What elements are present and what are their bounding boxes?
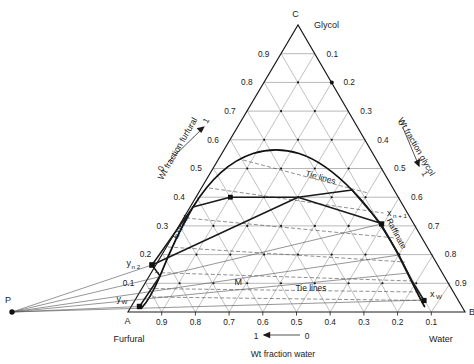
right-tick-4: 0.5 <box>394 163 406 173</box>
left-tick-7: 0.2 <box>140 249 152 259</box>
right-tick-5: 0.6 <box>411 192 423 202</box>
point-marker-y-n2 <box>149 262 155 268</box>
point-marker-y-w <box>137 304 142 309</box>
bottom-tick-5: 0.4 <box>324 317 336 327</box>
extract-label: Extract <box>170 212 191 240</box>
bottom-axis-arrow <box>263 332 300 339</box>
right-tick-7: 0.8 <box>445 249 457 259</box>
vertex-name-water: Water <box>429 334 453 344</box>
mix-point-label: M <box>235 277 243 287</box>
right-tick-1: 0.2 <box>343 77 355 87</box>
right-tick-3: 0.4 <box>377 135 389 145</box>
left-tick-8: 0.1 <box>123 278 135 288</box>
bottom-axis-to: 1 <box>254 331 259 341</box>
x-w-label: x W <box>430 289 442 301</box>
bottom-axis-title: Wt fraction water <box>251 349 316 359</box>
point-marker-x-n1 <box>379 221 384 226</box>
left-tick-0: 0.9 <box>258 49 270 59</box>
bottom-tick-2: 0.7 <box>223 317 235 327</box>
y-n2-label: y n 2 <box>127 258 141 270</box>
point-marker-x-w <box>421 298 426 303</box>
left-tick-3: 0.6 <box>207 135 219 145</box>
point-marker-m <box>228 195 233 200</box>
grid-parallel-to-right-edge <box>146 54 431 312</box>
pole-point-label: P <box>5 295 11 305</box>
bottom-tick-4: 0.5 <box>291 317 303 327</box>
ternary-diagram-svg: 0.9 0.8 0.7 0.6 0.5 0.4 0.3 0.2 0.1 0.1 … <box>0 0 474 364</box>
bottom-axis-tick-labels: 0.9 0.8 0.7 0.6 0.5 0.4 0.3 0.2 0.1 <box>156 317 438 327</box>
svg-text:W: W <box>436 293 442 300</box>
tie-lines-label-lower: Tie lines <box>296 283 327 293</box>
vertex-name-furfural: Furfural <box>114 334 145 344</box>
left-tick-2: 0.7 <box>224 106 236 116</box>
svg-text:n 2: n 2 <box>132 263 141 270</box>
svg-text:x: x <box>430 289 435 299</box>
grid-node-dots <box>179 81 418 284</box>
vertex-name-glycol: Glycol <box>314 20 339 30</box>
bottom-tick-7: 0.2 <box>392 317 404 327</box>
vertex-letter-c: C <box>292 9 299 19</box>
operating-lines-from-pole <box>12 224 424 312</box>
right-tick-6: 0.7 <box>428 221 440 231</box>
ternary-diagram-figure: 0.9 0.8 0.7 0.6 0.5 0.4 0.3 0.2 0.1 0.1 … <box>0 0 474 364</box>
svg-text:x: x <box>387 208 392 218</box>
right-tick-2: 0.3 <box>360 106 372 116</box>
left-tick-6: 0.3 <box>157 221 169 231</box>
left-tick-4: 0.5 <box>190 163 202 173</box>
right-tick-8: 0.9 <box>455 278 467 288</box>
bottom-tick-1: 0.8 <box>190 317 202 327</box>
bottom-tick-0: 0.9 <box>156 317 168 327</box>
vertex-letter-b: B <box>469 307 474 317</box>
bottom-tick-8: 0.1 <box>426 317 438 327</box>
svg-text:W: W <box>122 298 128 305</box>
left-axis-title-group: Wt fraction furfural 0 1 <box>155 116 211 182</box>
svg-text:n + 1: n + 1 <box>393 212 407 219</box>
point-marker-glycol-02 <box>330 80 334 84</box>
raffinate-label: Raffinate <box>384 217 409 251</box>
right-tick-0: 0.1 <box>327 49 339 59</box>
left-tick-1: 0.8 <box>241 77 253 87</box>
bottom-tick-3: 0.6 <box>257 317 269 327</box>
left-axis-to: 1 <box>200 116 211 125</box>
point-marker-pole <box>9 309 14 314</box>
bottom-tick-6: 0.3 <box>358 317 370 327</box>
vertex-letter-a: A <box>124 316 130 326</box>
left-tick-5: 0.4 <box>173 192 185 202</box>
bottom-axis-from: 0 <box>305 331 310 341</box>
